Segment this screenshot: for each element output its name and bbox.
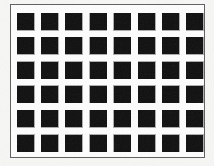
grid-square [17, 37, 34, 54]
grid-square [162, 62, 179, 79]
grid-square [114, 86, 131, 103]
grid-square [114, 13, 131, 30]
grid-square [17, 86, 34, 103]
grid-square [41, 13, 58, 30]
grid-square [138, 86, 155, 103]
grid-square [90, 37, 107, 54]
grid-square [90, 110, 107, 127]
pattern-frame [10, 4, 205, 158]
grid-square [138, 37, 155, 54]
grid-square [17, 135, 34, 152]
grid-square [90, 135, 107, 152]
grid-square [17, 13, 34, 30]
pattern-canvas [0, 0, 214, 166]
grid-square [41, 62, 58, 79]
grid-square [65, 13, 82, 30]
grid-square [90, 62, 107, 79]
grid-square [114, 62, 131, 79]
grid-square [186, 62, 203, 79]
grid-square [65, 135, 82, 152]
grid-square [90, 13, 107, 30]
grid-square [41, 135, 58, 152]
grid-square [41, 86, 58, 103]
grid-square [162, 86, 179, 103]
grid-square [138, 13, 155, 30]
grid-square [41, 110, 58, 127]
grid-square [17, 110, 34, 127]
grid-square [162, 37, 179, 54]
grid-square [162, 135, 179, 152]
grid-square [138, 62, 155, 79]
grid-square [114, 135, 131, 152]
grid-square [17, 62, 34, 79]
grid-square [186, 135, 203, 152]
grid-square [186, 13, 203, 30]
grid-square [186, 86, 203, 103]
grid-square [65, 37, 82, 54]
grid-square [90, 86, 107, 103]
grid-square [138, 135, 155, 152]
grid-square [162, 13, 179, 30]
grid-square [41, 37, 58, 54]
grid-square [65, 62, 82, 79]
grid-square [65, 86, 82, 103]
grid-square [114, 37, 131, 54]
grid-square [162, 110, 179, 127]
grid-square [65, 110, 82, 127]
square-grid [11, 5, 206, 159]
grid-square [186, 37, 203, 54]
grid-square [114, 110, 131, 127]
grid-square [186, 110, 203, 127]
grid-square [138, 110, 155, 127]
